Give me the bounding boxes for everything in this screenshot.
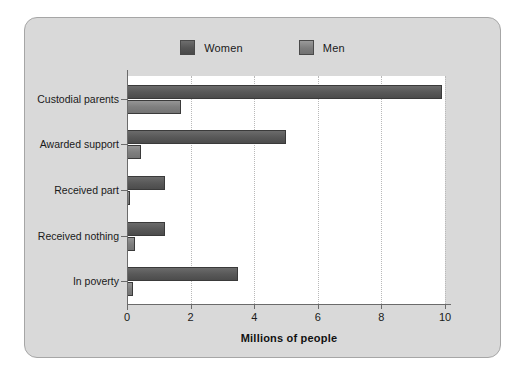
legend-label-women: Women	[204, 42, 243, 54]
x-axis-tick	[318, 304, 319, 309]
x-axis-tick-label: 10	[439, 311, 451, 323]
gridline	[254, 76, 256, 304]
x-axis-tick	[445, 304, 446, 309]
legend-item-women[interactable]: Women	[180, 40, 243, 55]
chart-figure-panel: Women Men 0246810 Custodial parentsAward…	[24, 17, 501, 358]
bar-women-received-part	[127, 176, 165, 190]
x-axis-tick-label: 2	[188, 311, 194, 323]
bar-women-custodial-parents	[127, 85, 442, 99]
gridline	[318, 76, 320, 304]
x-axis-tick-label: 0	[124, 311, 130, 323]
men-swatch-icon	[299, 40, 314, 55]
x-axis-tick-label: 6	[315, 311, 321, 323]
x-axis-line	[127, 304, 451, 305]
plot-area	[127, 76, 445, 304]
x-axis-tick	[191, 304, 192, 309]
bar-women-awarded-support	[127, 130, 286, 144]
x-axis-tick-label: 4	[251, 311, 257, 323]
bar-women-in-poverty	[127, 267, 238, 281]
legend-item-men[interactable]: Men	[299, 40, 345, 55]
y-axis-tick	[121, 144, 127, 145]
x-axis-title: Millions of people	[127, 332, 451, 344]
category-label-custodial-parents: Custodial parents	[0, 93, 119, 105]
x-axis-tick-label: 8	[378, 311, 384, 323]
y-axis-tick	[121, 99, 127, 100]
x-axis-tick	[127, 304, 128, 309]
category-label-received-part: Received part	[0, 184, 119, 196]
category-label-awarded-support: Awarded support	[0, 138, 119, 150]
legend-label-men: Men	[323, 42, 345, 54]
category-label-in-poverty: In poverty	[0, 275, 119, 287]
x-axis-tick	[381, 304, 382, 309]
y-axis-tick	[121, 190, 127, 191]
bar-men-received-nothing	[127, 237, 135, 251]
x-axis-tick	[254, 304, 255, 309]
bar-men-custodial-parents	[127, 100, 181, 114]
women-swatch-icon	[180, 40, 195, 55]
y-axis-tick	[121, 236, 127, 237]
bar-women-received-nothing	[127, 222, 165, 236]
gridline	[381, 76, 383, 304]
gridline	[445, 76, 447, 304]
y-axis-tick	[121, 281, 127, 282]
y-axis-line	[127, 70, 128, 310]
chart-legend: Women Men	[25, 40, 500, 55]
bar-men-awarded-support	[127, 145, 141, 159]
category-label-received-nothing: Received nothing	[0, 230, 119, 242]
